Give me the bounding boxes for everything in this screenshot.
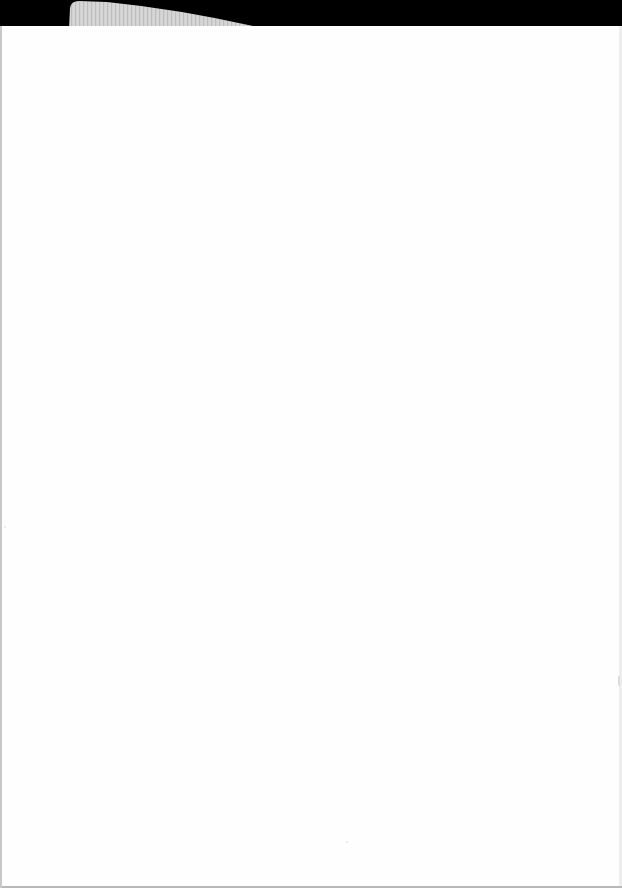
scan-speck — [4, 526, 6, 528]
scan-speck — [618, 676, 620, 686]
blank-page — [0, 26, 622, 888]
scan-speck — [346, 841, 348, 843]
page-text — [0, 26, 1, 27]
scanned-document — [0, 0, 622, 888]
